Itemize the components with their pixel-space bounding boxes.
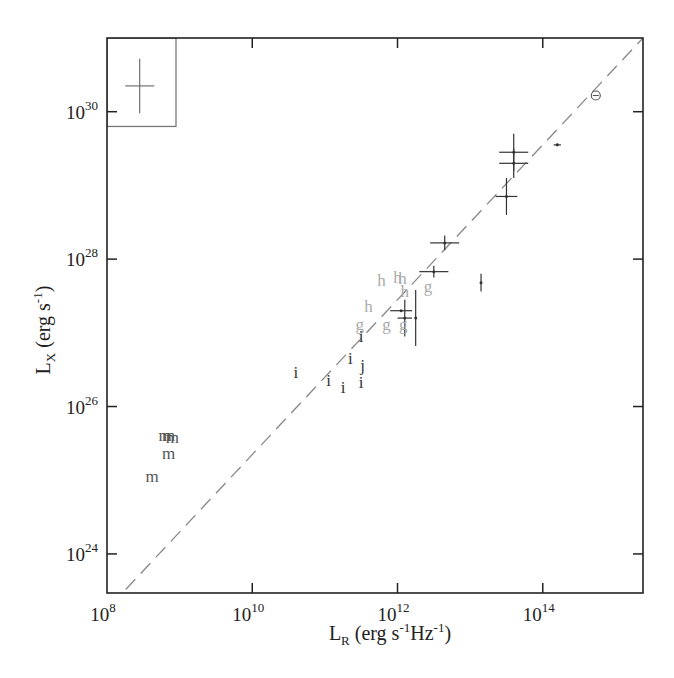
x-tick-label: 1010 — [232, 600, 264, 625]
letter-marker-m: m — [145, 467, 158, 486]
letter-marker-i: i — [359, 373, 364, 392]
data-point-marker — [480, 281, 483, 284]
letter-marker-g: g — [424, 277, 433, 296]
data-point-marker — [556, 143, 559, 146]
letter-marker-i: i — [293, 363, 298, 382]
y-tick-label: 1024 — [66, 540, 99, 565]
data-point-marker — [432, 270, 435, 273]
letter-marker-h: h — [364, 297, 373, 316]
data-point-marker — [512, 162, 515, 165]
letter-marker-i: i — [341, 378, 346, 397]
dashed-reference-line — [111, 38, 643, 606]
error-bar-point — [414, 290, 417, 346]
x-axis-label: LR (erg s-1Hz-1) — [329, 620, 451, 648]
y-tick-label: 1028 — [66, 245, 98, 270]
x-tick-label: 108 — [90, 600, 116, 625]
y-tick-label: 1026 — [66, 393, 99, 418]
error-bar-point — [390, 309, 412, 312]
error-bar-point — [480, 274, 483, 292]
letter-marker-h: h — [377, 271, 386, 290]
data-point-marker — [400, 309, 403, 312]
error-bar-point — [499, 149, 528, 178]
letter-marker-g: g — [399, 315, 408, 334]
error-bar-point — [419, 266, 448, 278]
letter-marker-m: m — [162, 444, 175, 463]
letter-marker-i: i — [348, 349, 353, 368]
letter-marker-i: i — [326, 371, 331, 390]
data-point-marker — [443, 241, 446, 244]
y-axis-label: LX (erg s-1) — [30, 286, 58, 375]
plot-frame — [107, 38, 643, 593]
data-point-marker — [414, 317, 417, 320]
plot-area: hhhhghgggiijiiiimmmmm — [107, 38, 643, 606]
plot-content: hhhhghgggiijiiiimmmmm — [107, 38, 643, 606]
y-tick-label: 1030 — [66, 98, 98, 123]
scatter-chart: hhhhghgggiijiiiimmmmm 108101010121014102… — [0, 0, 674, 678]
letter-marker-h: h — [401, 282, 410, 301]
error-legend-box — [107, 38, 176, 126]
error-bar-point — [496, 178, 518, 215]
error-bar-point — [554, 143, 561, 146]
error-bar-point — [430, 236, 459, 251]
letter-marker-i: i — [359, 327, 364, 346]
x-tick-label: 1014 — [523, 600, 556, 625]
letter-marker-g: g — [382, 315, 391, 334]
data-point-marker — [505, 195, 508, 198]
